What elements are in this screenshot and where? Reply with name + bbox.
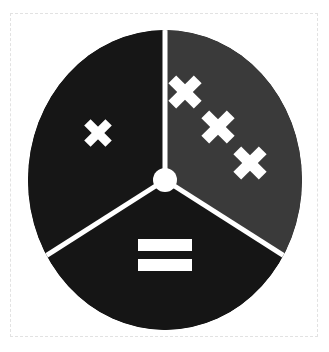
emblem-canvas [0, 0, 329, 352]
equals-bar-top [138, 239, 192, 251]
emblem-container[interactable] [28, 30, 302, 330]
three-spoke-roundel[interactable] [28, 30, 302, 330]
center-hub-icon[interactable] [153, 168, 177, 192]
equals-bar-bottom [138, 259, 192, 271]
